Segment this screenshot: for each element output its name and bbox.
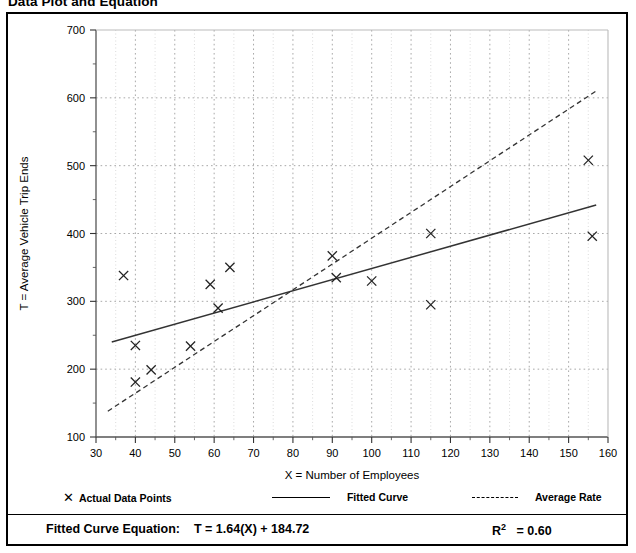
legend-label-fitted-curve: Fitted Curve <box>347 491 408 503</box>
y-tick-label: 100 <box>67 431 85 443</box>
y-axis-title: T = Average Vehicle Trip Ends <box>18 156 30 310</box>
axis-ticks <box>90 30 608 443</box>
data-point-marker <box>206 280 215 289</box>
data-point-marker <box>426 300 435 309</box>
legend-label-actual-data-points: Actual Data Points <box>79 492 172 504</box>
y-tick-label: 500 <box>67 160 85 172</box>
x-tick-label: 110 <box>402 447 420 459</box>
x-axis-tick-labels: 30405060708090100110120130140150160 <box>90 447 617 459</box>
r-squared-number: = 0.60 <box>517 524 552 538</box>
y-tick-label: 300 <box>67 295 85 307</box>
x-tick-label: 120 <box>441 447 459 459</box>
legend-item-average-rate: Average Rate <box>472 490 602 503</box>
legend-equation-divider <box>8 514 626 515</box>
chart-legend: ✕ Actual Data Points Fitted Curve Averag… <box>0 490 636 516</box>
equation-prefix: Fitted Curve Equation: <box>46 522 180 536</box>
actual-data-points <box>119 156 597 387</box>
data-point-marker <box>119 271 128 280</box>
x-tick-label: 40 <box>129 447 141 459</box>
x-tick-label: 150 <box>559 447 577 459</box>
scatter-chart: 30405060708090100110120130140150160 1002… <box>0 0 636 553</box>
figure-container: Data Plot and Equation 30405060708090100… <box>0 0 636 553</box>
x-axis-title: X = Number of Employees <box>285 469 420 481</box>
r-squared-value: R2 = 0.60 <box>492 522 552 538</box>
y-tick-label: 200 <box>67 363 85 375</box>
y-tick-label: 700 <box>67 24 85 36</box>
data-point-marker <box>225 263 234 272</box>
x-tick-label: 100 <box>363 447 381 459</box>
r-squared-exponent: 2 <box>501 522 506 532</box>
x-tick-label: 140 <box>520 447 538 459</box>
x-tick-label: 60 <box>208 447 220 459</box>
y-axis-tick-labels: 100200300400500600700 <box>67 24 85 443</box>
x-marker-icon: ✕ <box>60 490 76 505</box>
equation-row: Fitted Curve Equation: T = 1.64(X) + 184… <box>0 522 636 546</box>
x-tick-label: 70 <box>247 447 259 459</box>
x-tick-label: 90 <box>326 447 338 459</box>
x-tick-label: 160 <box>599 447 617 459</box>
minor-gridlines <box>116 30 589 437</box>
data-point-marker <box>588 232 597 241</box>
x-tick-label: 50 <box>169 447 181 459</box>
dashed-line-icon <box>472 497 518 498</box>
data-point-marker <box>147 365 156 374</box>
r-squared-symbol: R <box>492 524 501 538</box>
legend-item-actual-data-points: ✕ Actual Data Points <box>60 490 172 505</box>
x-tick-label: 130 <box>481 447 499 459</box>
x-tick-label: 30 <box>90 447 102 459</box>
fitted-curve-line <box>112 205 596 342</box>
data-point-marker <box>186 342 195 351</box>
equation-formula: T = 1.64(X) + 184.72 <box>194 522 309 536</box>
legend-item-fitted-curve: Fitted Curve <box>272 490 408 503</box>
data-point-marker <box>328 251 337 260</box>
y-tick-label: 600 <box>67 92 85 104</box>
solid-line-icon <box>272 497 330 498</box>
y-tick-label: 400 <box>67 228 85 240</box>
fitted-curve-equation: Fitted Curve Equation: T = 1.64(X) + 184… <box>46 522 309 536</box>
x-tick-label: 80 <box>287 447 299 459</box>
legend-label-average-rate: Average Rate <box>535 491 602 503</box>
